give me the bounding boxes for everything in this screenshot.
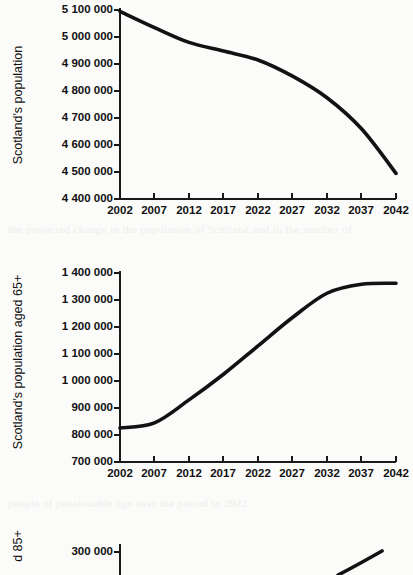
y-tick-label: 4 900 000 [62,57,113,69]
y-axis-title-group: Scotland's population aged 65+ [11,275,25,449]
y-tick-label: 4 700 000 [62,111,113,123]
x-tick-label: 2037 [348,204,374,216]
y-tick-label: 4 600 000 [62,138,113,150]
y-tick-label: 5 100 000 [62,3,113,15]
y-tick-label: 1 200 000 [62,320,113,332]
x-tick-label: 2042 [383,467,409,479]
chart-population-85-plus: d 85+ 300 000 [0,500,413,575]
chart-population-65-plus-svg: Scotland's population aged 65+ 1 400 000… [0,252,413,500]
x-tick-label: 2017 [210,204,236,216]
y-tick-label: 4 400 000 [62,192,113,204]
y-tick-label: 4 800 000 [62,84,113,96]
y-tick-label: 900 000 [71,401,113,413]
y-axis-title: Scotland's population aged 65+ [11,275,25,449]
y-tick-label: 1 300 000 [62,293,113,305]
x-tick-label: 2032 [314,467,340,479]
y-axis-title: Scotland's population [11,46,25,164]
y-axis-title-group: Scotland's population [11,46,25,164]
x-tick-labels: 2002 2007 2012 2017 2022 2027 2032 2037 … [107,467,409,479]
chart-total-population-svg: Scotland's population 5 100 000 5 000 00… [0,0,413,232]
y-tick-label: 700 000 [71,455,113,467]
axes [114,271,396,462]
x-tick-label: 2012 [176,204,202,216]
y-axis-title-group: d 85+ [11,530,25,562]
x-tick-labels: 2002 2007 2012 2017 2022 2027 2032 2037 … [107,204,409,216]
x-tick-label: 2037 [348,467,374,479]
y-tick-labels: 5 100 000 5 000 000 4 900 000 4 800 000 … [62,3,113,204]
x-tick-label: 2002 [107,204,133,216]
x-tick-label: 2017 [210,467,236,479]
x-tick-label: 2022 [245,467,271,479]
y-tick-label: 4 500 000 [62,165,113,177]
x-tick-label: 2007 [141,467,167,479]
x-tick-label: 2007 [141,204,167,216]
data-series-line [338,551,382,575]
x-tick-label: 2042 [383,204,409,216]
axes [114,8,396,199]
data-series-line [120,11,396,173]
y-axis-title: d 85+ [11,530,25,562]
y-tick-label: 1 000 000 [62,374,113,386]
y-tick-label: 1 400 000 [62,266,113,278]
x-tick-label: 2027 [279,467,305,479]
chart-population-65-plus: Scotland's population aged 65+ 1 400 000… [0,252,413,500]
x-tick-label: 2002 [107,467,133,479]
x-tick-label: 2022 [245,204,271,216]
x-tick-label: 2027 [279,204,305,216]
y-tick-label: 5 000 000 [62,30,113,42]
data-series-line [120,283,396,428]
y-tick-label: 300 000 [71,545,113,557]
y-tick-label: 1 100 000 [62,347,113,359]
y-tick-labels: 1 400 000 1 300 000 1 200 000 1 100 000 … [62,266,113,467]
chart-population-85-plus-svg: d 85+ 300 000 [0,500,413,575]
y-tick-label: 800 000 [71,428,113,440]
x-tick-label: 2012 [176,467,202,479]
x-tick-label: 2032 [314,204,340,216]
axes [114,544,120,575]
chart-total-population: Scotland's population 5 100 000 5 000 00… [0,0,413,232]
